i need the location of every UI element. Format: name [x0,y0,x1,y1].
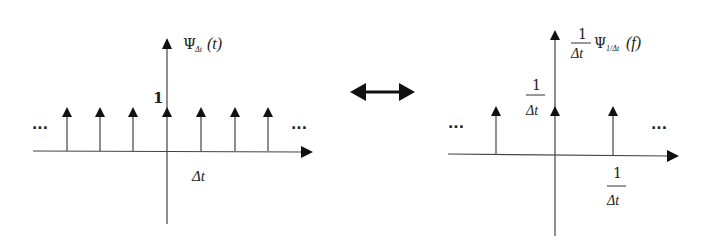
left-impulse-height-label: 1 [153,89,163,107]
impulse-arrowhead-icon [95,107,105,117]
impulse-arrowhead-icon [62,107,72,117]
right-plot: 1 Δt Ψ 1/Δt (f) 1 Δt 1 Δt ··· ··· [448,26,679,236]
left-ellipsis-right: ··· [291,120,307,136]
right-spacing-denominator: Δt [606,193,620,208]
impulse-arrowhead-icon [196,107,206,117]
impulse-arrowhead-icon [550,106,560,116]
left-y-axis-label-arg: (t) [207,35,222,53]
transform-pair-arrow-icon [350,83,415,101]
impulse-arrowhead-icon [263,107,273,117]
impulse-arrowhead-icon [128,107,138,117]
left-ellipsis-left: ··· [32,120,48,136]
right-impulse-height-denominator: Δt [525,103,539,118]
right-amplitude-axis-arrowhead-icon [550,30,560,40]
fourier-pair-diagram: Ψ Δt (t) 1 Δt ··· ··· 1 Δt Ψ 1/ [0,0,706,245]
left-amplitude-axis-arrowhead-icon [162,38,172,49]
right-y-axis-coef-denominator: Δt [570,46,584,61]
right-ellipsis-left: ··· [448,119,464,135]
impulse-arrowhead-icon [230,107,240,117]
left-spacing-label: Δt [191,168,206,184]
left-y-axis-label-subscript: Δt [194,45,203,54]
right-y-axis-label-subscript: 1/Δt [606,44,620,53]
right-y-axis-coef-numerator: 1 [578,26,587,42]
right-y-axis-label-arg: (f) [626,34,641,52]
right-y-axis-label-symbol: Ψ [594,35,606,51]
right-ellipsis-right: ··· [651,120,667,136]
impulse-arrowhead-icon [608,106,618,116]
left-time-axis-arrowhead-icon [301,146,313,158]
left-plot: Ψ Δt (t) 1 Δt ··· ··· [32,35,313,224]
impulse-arrowhead-icon [491,106,501,116]
right-impulse-height-numerator: 1 [532,77,541,93]
impulse-arrowhead-icon [162,107,172,117]
left-time-axis [33,151,304,152]
right-frequency-axis-arrowhead-icon [667,150,679,162]
right-frequency-axis [448,154,670,156]
right-spacing-numerator: 1 [613,165,622,181]
